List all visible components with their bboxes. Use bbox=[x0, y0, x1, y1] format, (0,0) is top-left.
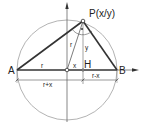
label-y: y bbox=[85, 44, 89, 52]
y-axis-arrow-icon bbox=[65, 2, 68, 9]
label-r-OP: r bbox=[70, 41, 73, 48]
label-A: A bbox=[8, 65, 15, 76]
label-r-plus-x: r+x bbox=[43, 81, 53, 88]
label-r-minus-x: r-x bbox=[92, 72, 100, 79]
point-O bbox=[65, 68, 69, 72]
right-angle-dot bbox=[81, 28, 83, 30]
label-x: x bbox=[73, 62, 77, 69]
label-H: H bbox=[84, 59, 91, 70]
label-r-AO: r bbox=[41, 62, 44, 69]
point-P bbox=[81, 19, 85, 23]
label-P: P(x/y) bbox=[89, 8, 115, 19]
x-axis-arrow-icon bbox=[132, 68, 139, 71]
thales-diagram: P(x/y) A B H r r x y r+x r-x bbox=[0, 0, 150, 127]
label-B: B bbox=[119, 65, 126, 76]
